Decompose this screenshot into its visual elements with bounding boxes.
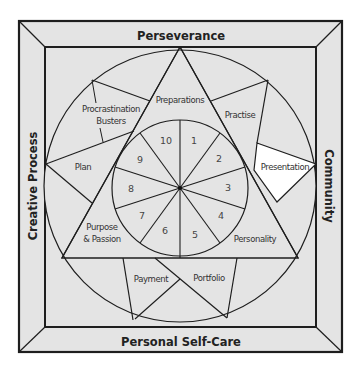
band-label-left: Creative Process [26,131,40,240]
label-presentation: Presentation [261,162,310,172]
label-purpose: Purpose [86,222,117,232]
wheel-number-7: 7 [139,210,145,221]
wheel-number-1: 1 [191,135,197,146]
wheel-number-9: 9 [137,154,143,165]
label-plan: Plan [75,162,91,172]
label-passion: & Passion [83,234,121,244]
wheel-number-4: 4 [218,210,224,221]
wheel-number-5: 5 [192,229,198,240]
band-label-top: Perseverance [137,29,225,43]
wheel-number-6: 6 [162,225,168,236]
label-personality: Personality [234,234,277,244]
wheel-number-8: 8 [128,183,134,194]
label-payment: Payment [134,274,169,284]
p-framework-diagram: 1 2 3 4 5 6 7 8 9 10 Preparations Practi… [0,0,361,371]
band-label-right: Community [322,149,336,223]
label-preparations: Preparations [156,95,206,105]
band-label-bottom: Personal Self-Care [121,335,241,349]
wheel-center [178,186,182,190]
wheel-number-3: 3 [225,182,231,193]
label-procrastination: Procrastination [82,104,140,114]
label-busters: Busters [96,116,126,126]
label-portfolio: Portfolio [193,273,225,283]
label-practise: Practise [225,110,256,120]
wheel-number-2: 2 [216,153,222,164]
wheel-number-10: 10 [160,135,172,146]
